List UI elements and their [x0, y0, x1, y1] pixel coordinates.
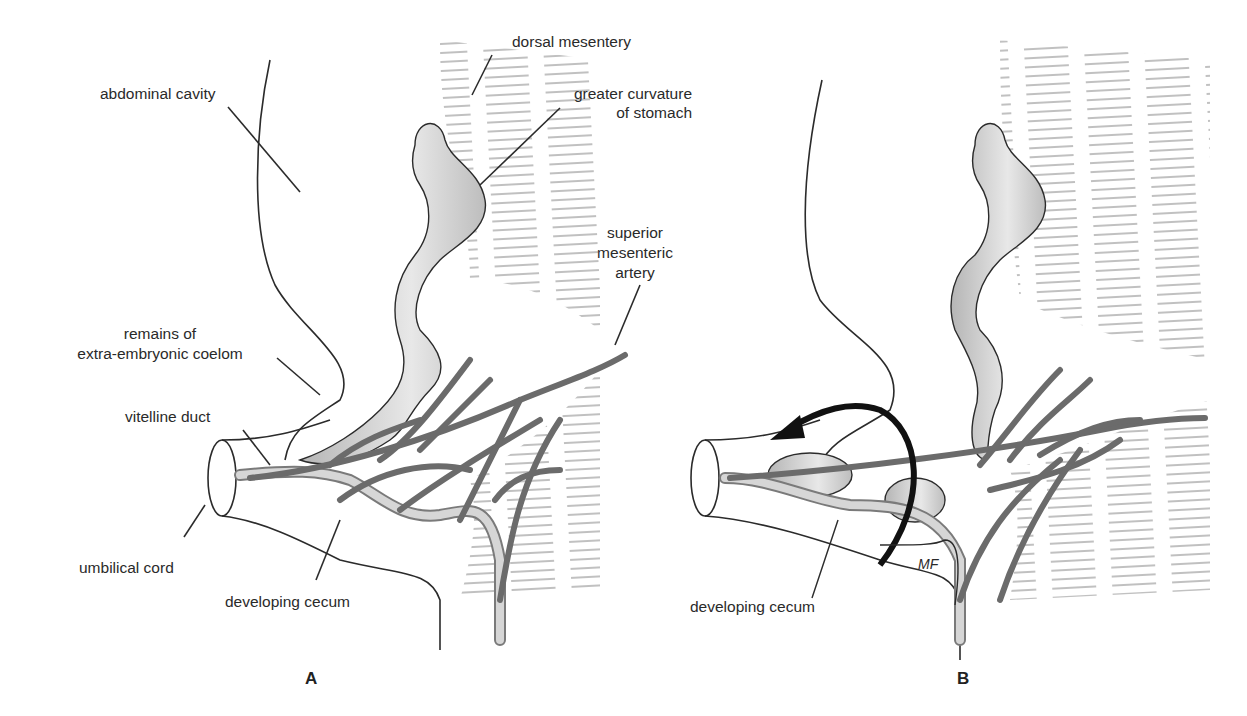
panel-label-b: B [957, 669, 969, 689]
label-sma-line1: superior [580, 224, 690, 242]
label-greater-curvature-line1: greater curvature [560, 85, 692, 103]
label-abdominal-cavity: abdominal cavity [100, 85, 215, 103]
label-vitelline-duct: vitelline duct [125, 408, 210, 426]
label-umbilical-cord: umbilical cord [79, 559, 174, 577]
label-remains-line1: remains of [45, 325, 275, 343]
label-sma-line2: mesenteric [580, 244, 690, 262]
panel-label-a: A [305, 669, 317, 689]
label-developing-cecum-a: developing cecum [225, 593, 350, 611]
label-greater-curvature-line2: of stomach [560, 104, 692, 122]
label-dorsal-mesentery: dorsal mesentery [512, 33, 631, 51]
label-developing-cecum-b: developing cecum [690, 598, 815, 616]
figure-canvas: abdominal cavity dorsal mesentery greate… [0, 0, 1247, 716]
panel-b-drawing [691, 40, 1210, 660]
label-sma-line3: artery [580, 264, 690, 282]
artist-signature: MF [918, 555, 938, 573]
label-remains-line2: extra-embryonic coelom [45, 345, 275, 363]
